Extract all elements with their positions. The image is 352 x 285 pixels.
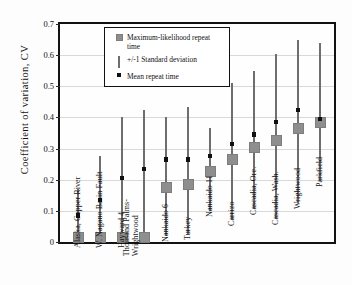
x-axis-category-label: Wrightwood (293, 168, 302, 209)
y-axis-tick-label: 0.3 (43, 144, 54, 154)
chart-legend: Maximum-likelihood repeat time +/-1 Stan… (104, 27, 230, 87)
ml-square-marker (249, 142, 260, 153)
ml-square-marker (161, 182, 172, 193)
legend-item-mean-repeat-time: Mean repeat time (111, 72, 223, 81)
y-axis-tick-mark (56, 24, 60, 25)
x-axis-category-label: Cascadia, Ore. (249, 167, 258, 215)
gridline (60, 117, 334, 118)
x-axis-category-label: Alaska, Copper River (73, 176, 82, 248)
y-axis-tick-label: 0 (50, 237, 54, 247)
legend-item-standard-deviation: +/-1 Standard deviation (111, 55, 223, 68)
y-axis-tick-label: 0.6 (43, 50, 54, 60)
ml-square-marker (271, 135, 282, 146)
gridline (60, 149, 334, 150)
mean-square-marker (208, 154, 212, 158)
x-axis-category-label: Turkey (183, 217, 192, 240)
legend-label-maximum-likelihood: Maximum-likelihood repeat time (127, 33, 223, 51)
y-axis-tick-mark (56, 242, 60, 243)
ml-square-marker (183, 179, 194, 190)
ml-square-marker (227, 154, 238, 165)
error-bar (187, 107, 189, 235)
mean-square-marker (274, 120, 278, 124)
y-axis-tick-label: 0.5 (43, 81, 54, 91)
mean-square-marker (252, 132, 256, 136)
mean-square-marker (318, 117, 322, 121)
ml-square-marker-icon (111, 33, 127, 41)
mean-square-marker (142, 167, 146, 171)
x-axis-category-label: Parkfield (315, 157, 324, 187)
x-axis-category-label: Nankaido 6 (161, 204, 170, 242)
y-axis-tick-label: 0.7 (43, 19, 54, 29)
y-axis-tick-label: 0.2 (43, 175, 54, 185)
y-axis-tick-mark (56, 149, 60, 150)
y-axis-label: Coefficient of variation, CV (19, 10, 30, 210)
small-square-marker-icon (111, 72, 127, 77)
y-axis-tick-label: 0.4 (43, 112, 54, 122)
mean-square-marker (296, 108, 300, 112)
mean-square-marker (164, 157, 168, 161)
vertical-line-marker-icon (111, 55, 127, 68)
ml-square-marker (293, 123, 304, 134)
ml-square-marker (139, 232, 150, 243)
y-axis-tick-mark (56, 211, 60, 212)
x-axis-category-label: W. Nagano Basin Fault (95, 172, 104, 248)
y-axis-tick-mark (56, 180, 60, 181)
x-axis-category-label: Carrizo (227, 201, 236, 226)
error-bar (143, 110, 145, 242)
y-axis-tick-mark (56, 86, 60, 87)
legend-label-mean-repeat-time: Mean repeat time (127, 72, 223, 81)
chart-figure: Coefficient of variation, CV 00.10.20.30… (0, 0, 352, 285)
y-axis-tick-label: 0.1 (43, 206, 54, 216)
y-axis-tick-mark (56, 55, 60, 56)
legend-label-standard-deviation: +/-1 Standard deviation (127, 55, 223, 64)
y-axis-tick-mark (56, 117, 60, 118)
legend-item-maximum-likelihood: Maximum-likelihood repeat time (111, 33, 223, 51)
mean-square-marker (186, 157, 190, 161)
mean-square-marker (230, 142, 234, 146)
x-axis-category-label: Nankaido 11 (205, 175, 214, 217)
error-bar (231, 83, 233, 220)
x-axis-category-label: Thousand Palms-Wrightwood (123, 199, 140, 256)
mean-square-marker (120, 176, 124, 180)
x-axis-category-label: Cascadia, Wash. (271, 171, 280, 225)
